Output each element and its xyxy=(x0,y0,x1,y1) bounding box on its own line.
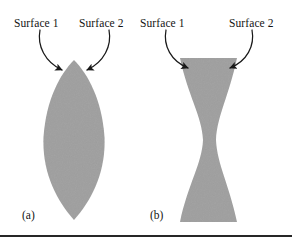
panel-tag-b: (b) xyxy=(150,210,163,222)
figure-container: Surface 1 Surface 2 Surface 1 Surface 2 … xyxy=(0,0,292,243)
label-panel-b-surface-2: Surface 2 xyxy=(229,18,274,30)
lens-shape xyxy=(43,60,104,220)
panel-b-shape-group xyxy=(180,58,237,222)
diagram-canvas xyxy=(0,0,292,243)
arrow-a-surface2 xyxy=(87,30,110,70)
bottom-divider-rule xyxy=(0,235,292,237)
hourglass-shape xyxy=(180,58,237,222)
label-panel-a-surface-1: Surface 1 xyxy=(14,18,59,30)
panel-tag-a: (a) xyxy=(22,210,35,222)
label-panel-a-surface-2: Surface 2 xyxy=(79,18,124,30)
label-panel-b-surface-1: Surface 1 xyxy=(140,18,185,30)
panel-a-shape-group xyxy=(43,60,104,220)
arrow-a-surface1 xyxy=(39,30,62,70)
